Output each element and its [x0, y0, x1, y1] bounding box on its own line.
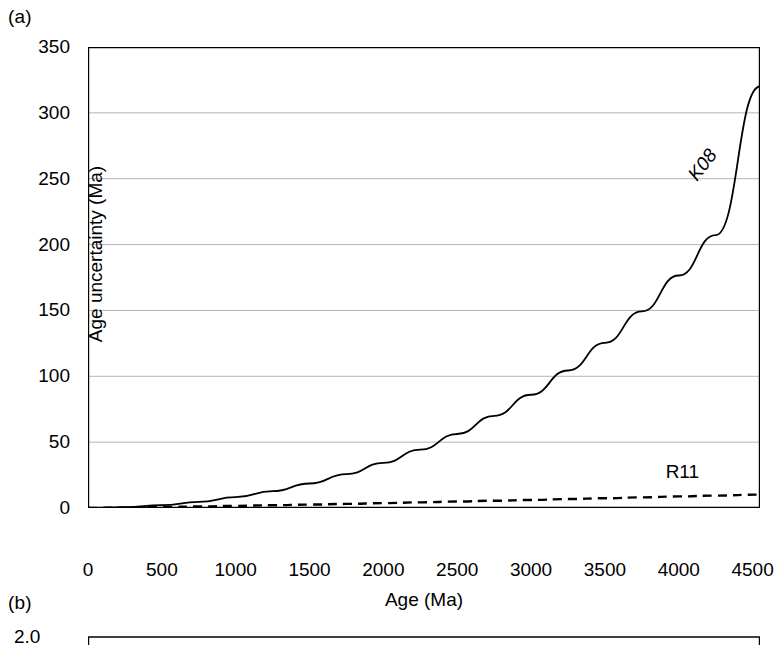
panel-b-canvas — [88, 636, 760, 645]
panel-a-x-axis-title: Age (Ma) — [88, 589, 760, 611]
panel-a-ytick-50: 50 — [10, 431, 70, 453]
panel-a-xtick-1500: 1500 — [288, 559, 330, 581]
panel-a-plot: 050100150200250300350 050010001500200025… — [88, 47, 760, 508]
panel-a-ytick-250: 250 — [10, 168, 70, 190]
panel-a-xtick-1000: 1000 — [215, 559, 257, 581]
panel-a-xtick-2500: 2500 — [436, 559, 478, 581]
panel-a-y-axis-title: Age uncertainty (Ma) — [85, 24, 107, 484]
panel-a-xtick-4000: 4000 — [658, 559, 700, 581]
series-label-r11: R11 — [666, 461, 699, 483]
panel-a-ytick-300: 300 — [10, 102, 70, 124]
panel-a-ytick-350: 350 — [10, 36, 70, 58]
panel-b-ytick-label-top: 2.0 — [14, 626, 40, 645]
panel-a-xtick-500: 500 — [146, 559, 178, 581]
panel-a-ytick-0: 0 — [10, 497, 70, 519]
panel-a-xtick-0: 0 — [83, 559, 94, 581]
panel-a-xtick-labels: 050010001500200025003000350040004500 — [88, 47, 760, 508]
panel-b-plot — [88, 636, 760, 645]
panel-a-xtick-4500: 4500 — [731, 559, 773, 581]
panel-b-label: (b) — [8, 592, 32, 614]
panel-a-xtick-3500: 3500 — [584, 559, 626, 581]
panel-a-ytick-200: 200 — [10, 234, 70, 256]
panel-a-xtick-2000: 2000 — [362, 559, 404, 581]
panel-a-ytick-150: 150 — [10, 299, 70, 321]
panel-a-xtick-3000: 3000 — [510, 559, 552, 581]
panel-a-ytick-100: 100 — [10, 365, 70, 387]
panel-a-label: (a) — [8, 6, 32, 28]
